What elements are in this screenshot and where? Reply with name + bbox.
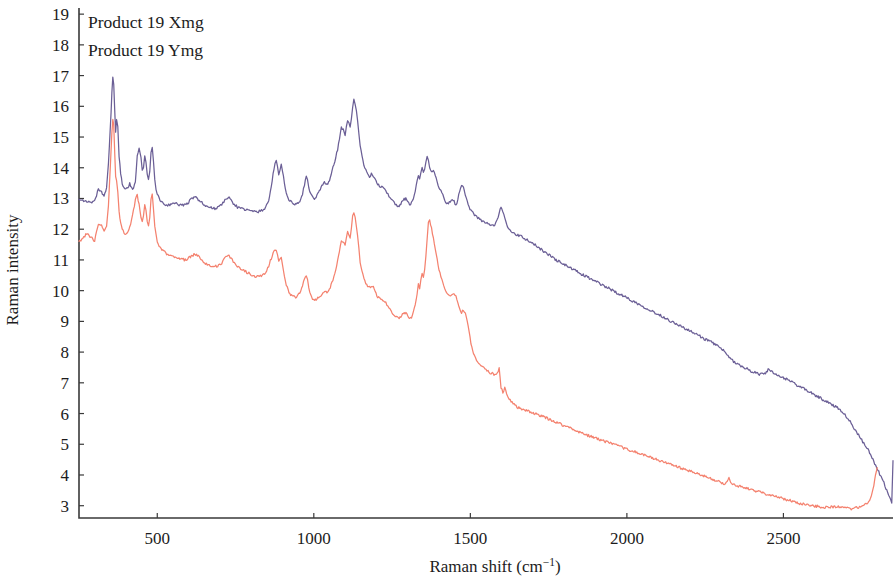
y-axis-title: Raman intensity bbox=[3, 214, 22, 325]
x-axis-title-close: ) bbox=[555, 557, 561, 576]
y-axis-tick-label: 7 bbox=[61, 374, 70, 393]
x-axis-tick-label: 2000 bbox=[610, 529, 644, 548]
x-axis-tick-label: 1000 bbox=[297, 529, 331, 548]
legend-entry-product-19-xmg: Product 19 Xmg bbox=[88, 12, 204, 32]
x-axis-title-superscript: −1 bbox=[543, 556, 555, 568]
y-axis-tick-label: 10 bbox=[52, 282, 69, 301]
y-axis-tick-label: 8 bbox=[61, 343, 70, 362]
spectra-group bbox=[79, 77, 893, 510]
y-axis-tick-label: 19 bbox=[52, 5, 69, 24]
raman-spectrum-figure: 345678910111213141516171819 500100015002… bbox=[0, 0, 895, 578]
y-axis-tick-label: 16 bbox=[52, 97, 69, 116]
y-axis-tick-label: 13 bbox=[52, 189, 69, 208]
x-axis-tick-label: 2500 bbox=[766, 529, 800, 548]
y-axis-tick-label: 12 bbox=[52, 220, 69, 239]
y-axis-tick-label: 18 bbox=[52, 36, 69, 55]
legend-entry-product-19-ymg: Product 19 Ymg bbox=[88, 40, 203, 60]
x-axis-tick-label: 1500 bbox=[453, 529, 487, 548]
x-axis-title: Raman shift (cm−1) bbox=[429, 556, 560, 576]
y-axis-tick-label: 11 bbox=[53, 251, 69, 270]
x-axis-tick-label: 500 bbox=[145, 529, 171, 548]
spectrum-line-product-19-xmg bbox=[79, 77, 893, 503]
x-axis-title-main: Raman shift (cm bbox=[429, 557, 542, 576]
y-axis-tick-label: 17 bbox=[52, 67, 70, 86]
y-axis-tick-label: 15 bbox=[52, 128, 69, 147]
y-axis-tick-label: 5 bbox=[61, 435, 70, 454]
axis-spines bbox=[79, 8, 893, 518]
y-axis-tick-label: 4 bbox=[61, 466, 70, 485]
y-axis-tick-label: 14 bbox=[52, 159, 70, 178]
y-axis-tick-label: 3 bbox=[61, 497, 70, 516]
chart-canvas: 345678910111213141516171819 500100015002… bbox=[0, 0, 895, 578]
y-axis-tick-label: 9 bbox=[61, 312, 70, 331]
y-axis-tick-label: 6 bbox=[61, 405, 70, 424]
spectrum-line-product-19-ymg bbox=[79, 119, 877, 509]
